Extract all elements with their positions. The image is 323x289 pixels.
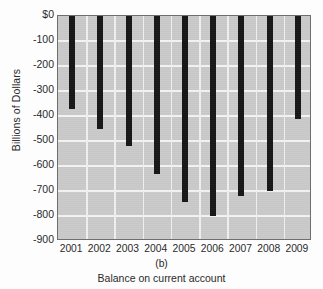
bar-2002 [97,16,103,129]
y-axis-tick-label: -900 [8,233,54,245]
y-axis-tick-label: -200 [8,58,54,70]
y-axis-tick-label: -300 [8,83,54,95]
gridline-vertical [143,16,144,239]
x-axis-tick-label: 2009 [285,243,308,254]
bar-2003 [126,16,132,146]
gridline-horizontal [58,215,310,217]
bar-2007 [238,16,244,196]
x-axis-tick-label: 2001 [60,243,83,254]
figure-caption: Balance on current account [0,272,323,284]
y-axis-tick-label: -800 [8,208,54,220]
gridline-vertical [171,16,172,239]
y-axis-tick-label: -600 [8,158,54,170]
gridline-vertical [284,16,285,239]
bar-2006 [210,16,216,216]
y-axis-tick-label: -500 [8,133,54,145]
gridline-vertical [227,16,228,239]
bar-2008 [267,16,273,191]
x-axis-tick-label: 2003 [116,243,139,254]
x-axis-tick-label: 2007 [229,243,252,254]
y-axis-tick-label: -100 [8,33,54,45]
gridline-vertical [256,16,257,239]
x-axis-tick-label: 2006 [201,243,224,254]
x-axis-tick-label: 2008 [257,243,280,254]
gridline-vertical [86,16,87,239]
y-axis-tick-label: -700 [8,183,54,195]
bar-2001 [69,16,75,109]
y-axis-tick-label: $0 [8,8,54,20]
gridline-vertical [199,16,200,239]
x-axis-tick-label: 2002 [88,243,111,254]
plot-area [57,15,311,240]
bar-2009 [295,16,301,119]
x-axis-tick-label: 2004 [144,243,167,254]
gridline-vertical [114,16,115,239]
x-axis-tick-label: 2005 [173,243,196,254]
y-axis-tick-label: -400 [8,108,54,120]
bar-2004 [154,16,160,174]
bar-2005 [182,16,188,202]
panel-letter: (b) [0,258,323,269]
figure-panel-b: Billions of Dollars $0-100-200-300-400-5… [0,0,323,289]
x-axis-tick-labels: 200120022003200420052006200720082009 [57,243,311,258]
